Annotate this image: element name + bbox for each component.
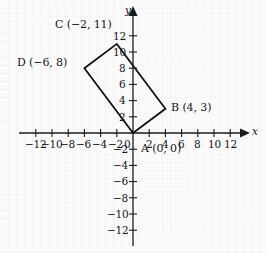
x-axis-arrow — [240, 128, 250, 137]
y-tick-label--12: −12 — [107, 225, 129, 236]
y-axis-name: y — [125, 5, 131, 16]
y-tick-label-2: 2 — [119, 112, 125, 123]
vertex-label-b: B (4, 3) — [171, 102, 211, 113]
y-tick-label-12: 12 — [113, 31, 126, 42]
y-tick-label-4: 4 — [119, 95, 125, 106]
x-axis-name: x — [252, 126, 258, 137]
x-tick-label-10: 10 — [208, 139, 221, 150]
vertex-label-d: D (−6, 8) — [17, 57, 67, 68]
x-axis — [19, 128, 250, 137]
y-tick-label--2: −2 — [113, 144, 128, 155]
y-tick-label--8: −8 — [113, 193, 128, 204]
x-tick-label--8: −8 — [60, 139, 75, 150]
x-tick-label--6: −6 — [76, 139, 91, 150]
y-tick-label-10: 10 — [113, 47, 126, 58]
vertex-label-a: A (0, 0) — [141, 143, 181, 154]
vertex-label-c: C (−2, 11) — [55, 19, 112, 30]
x-tick-label--4: −4 — [92, 139, 107, 150]
coordinate-plane-figure: −12 −10 −8 −6 −4 −2 2 4 6 8 10 12 0 12 1… — [0, 0, 266, 253]
plot-area — [0, 0, 266, 253]
y-axis — [128, 6, 137, 246]
x-tick-label-8: 8 — [194, 139, 200, 150]
y-tick-label--4: −4 — [113, 160, 128, 171]
y-tick-label--10: −10 — [107, 209, 129, 220]
y-tick-label-6: 6 — [119, 79, 125, 90]
x-tick-label-12: 12 — [224, 139, 237, 150]
y-tick-label-8: 8 — [119, 63, 125, 74]
y-tick-label--6: −6 — [113, 176, 128, 187]
